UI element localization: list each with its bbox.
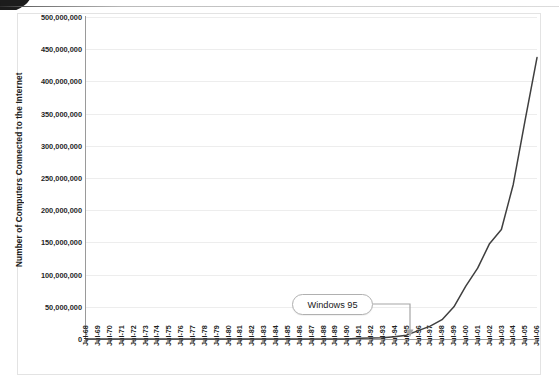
- x-axis-tick-label: Jul-93: [379, 325, 386, 346]
- x-axis-tick-label: Jul-94: [391, 325, 398, 346]
- x-axis-tick-label: Jul-02: [486, 325, 493, 346]
- x-axis-tick-label: Jul-68: [82, 325, 89, 346]
- x-axis-tick-label: Jul-99: [450, 325, 457, 346]
- x-axis-tick-label: Jul-97: [426, 325, 433, 346]
- chart-plot-wrapper: Number of Computers Connected to the Int…: [0, 0, 559, 386]
- windows-95-annotation: Windows 95: [292, 294, 373, 315]
- x-axis-tick-label: Jul-82: [248, 325, 255, 346]
- x-axis-tick-label: Jul-88: [319, 325, 326, 346]
- x-axis-tick-label: Jul-90: [343, 325, 350, 346]
- x-axis-tick-label: Jul-74: [153, 325, 160, 346]
- x-axis-tick-label: Jul-79: [213, 325, 220, 346]
- x-axis-tick-label: Jul-86: [296, 325, 303, 346]
- x-axis-tick-label: Jul-80: [224, 325, 231, 346]
- x-axis-tick-label: Jul-01: [474, 325, 481, 346]
- x-axis-tick-label: Jul-95: [402, 325, 409, 346]
- x-axis-tick-label: Jul-77: [189, 325, 196, 346]
- x-axis-tick-label: Jul-81: [236, 325, 243, 346]
- x-axis-tick-label: Jul-03: [497, 325, 504, 346]
- x-axis-tick-label: Jul-76: [177, 325, 184, 346]
- x-axis-tick-label: Jul-89: [331, 325, 338, 346]
- x-axis-tick-label: Jul-84: [272, 325, 279, 346]
- x-axis-tick-label: Jul-83: [260, 325, 267, 346]
- x-axis-tick-label: Jul-92: [367, 325, 374, 346]
- x-axis-tick-label: Jul-00: [462, 325, 469, 346]
- x-axis-tick-labels: Jul-68Jul-69Jul-70Jul-71Jul-72Jul-73Jul-…: [0, 0, 559, 386]
- x-axis-tick-label: Jul-91: [355, 325, 362, 346]
- x-axis-tick-label: Jul-04: [509, 325, 516, 346]
- x-axis-tick-label: Jul-96: [414, 325, 421, 346]
- x-axis-tick-label: Jul-70: [106, 325, 113, 346]
- x-axis-tick-label: Jul-78: [201, 325, 208, 346]
- x-axis-tick-label: Jul-98: [438, 325, 445, 346]
- x-axis-tick-label: Jul-73: [141, 325, 148, 346]
- x-axis-tick-label: Jul-06: [533, 325, 540, 346]
- x-axis-tick-label: Jul-85: [284, 325, 291, 346]
- x-axis-tick-label: Jul-69: [94, 325, 101, 346]
- x-axis-tick-label: Jul-72: [129, 325, 136, 346]
- x-axis-tick-label: Jul-87: [307, 325, 314, 346]
- x-axis-tick-label: Jul-71: [118, 325, 125, 346]
- x-axis-tick-label: Jul-75: [165, 325, 172, 346]
- x-axis-tick-label: Jul-05: [521, 325, 528, 346]
